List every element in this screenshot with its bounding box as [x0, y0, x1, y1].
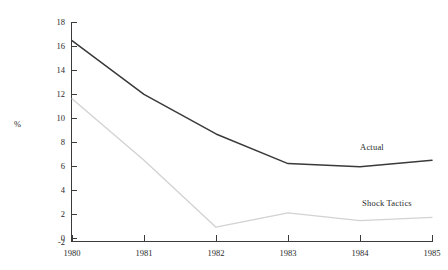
- chart-canvas: 18 16 14 12 10 8 6 4 2 0 -2 1980 1981 19…: [0, 0, 448, 270]
- series-label-shock-tactics: Shock Tactics: [362, 198, 412, 208]
- x-tick-1985: 1985: [424, 248, 441, 258]
- y-tick-12: 12: [57, 89, 66, 99]
- y-tick-4: 4: [61, 185, 66, 195]
- x-tick-1981: 1981: [136, 248, 153, 258]
- y-axis-ticks: [72, 22, 78, 238]
- series-label-actual: Actual: [360, 142, 384, 152]
- y-tick-18: 18: [57, 17, 66, 27]
- y-tick-2: 2: [61, 209, 65, 219]
- y-tick-16: 16: [57, 41, 66, 51]
- x-tick-1984: 1984: [352, 248, 370, 258]
- y-tick-10: 10: [57, 113, 66, 123]
- x-tick-1982: 1982: [208, 248, 225, 258]
- y-tick-6: 6: [61, 161, 65, 171]
- line-chart: 18 16 14 12 10 8 6 4 2 0 -2 1980 1981 19…: [0, 0, 448, 270]
- y-tick-minus2: -2: [58, 237, 65, 247]
- x-axis-ticks: [72, 235, 432, 242]
- y-tick-8: 8: [61, 137, 65, 147]
- y-axis-title: %: [14, 119, 21, 129]
- y-tick-14: 14: [57, 65, 66, 75]
- x-tick-1983: 1983: [280, 248, 297, 258]
- x-tick-1980: 1980: [64, 248, 81, 258]
